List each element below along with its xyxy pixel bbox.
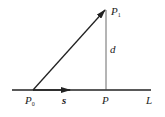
- label-p0: P0: [24, 94, 35, 107]
- label-d: d: [110, 43, 116, 55]
- label-l: L: [145, 94, 152, 106]
- label-p1: P1: [110, 5, 121, 18]
- vector-p0-p1: [33, 10, 105, 90]
- label-s: s: [61, 94, 66, 106]
- diagram-canvas: P1 d P0 s P L: [0, 0, 165, 117]
- label-p: P: [101, 94, 109, 106]
